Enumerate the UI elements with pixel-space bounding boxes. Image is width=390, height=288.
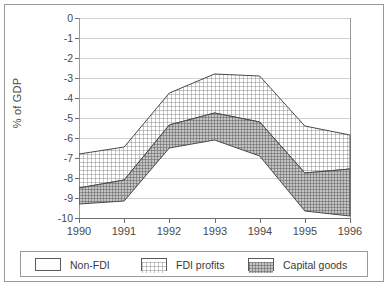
y-tick: -3 — [41, 73, 73, 83]
y-tick-label: 0 — [47, 13, 73, 23]
y-tick-label: -10 — [47, 213, 73, 223]
legend-item-capital-goods[interactable]: Capital goods — [248, 257, 347, 272]
x-tick-label: 1992 — [149, 225, 189, 237]
x-tick-mark — [124, 219, 125, 223]
x-tick-label: 1990 — [59, 225, 99, 237]
x-tick-label: 1996 — [330, 225, 370, 237]
legend-swatch-fdi-profits — [141, 258, 167, 271]
y-tick: -2 — [41, 53, 73, 63]
chart-legend: Non-FDI FDI profits Capital goods — [20, 251, 368, 277]
area-series-svg — [79, 18, 351, 219]
y-axis-title: % of GDP — [11, 53, 23, 153]
y-tick: 0 — [41, 13, 73, 23]
x-tick-mark — [350, 219, 351, 223]
y-tick: -6 — [41, 133, 73, 143]
y-tick: -7 — [41, 153, 73, 163]
legend-label-fdi-profits: FDI profits — [176, 259, 224, 271]
legend-item-fdi-profits[interactable]: FDI profits — [141, 257, 224, 272]
legend-label-non-fdi: Non-FDI — [70, 259, 110, 271]
chart-frame: % of GDP 0-1-2-3-4-5-6-7-8-9-10199019911… — [4, 4, 384, 282]
legend-swatch-capital-goods — [248, 258, 274, 271]
y-tick-label: -2 — [47, 53, 73, 63]
x-tick-mark — [305, 219, 306, 223]
x-tick-mark — [79, 219, 80, 223]
legend-label-capital-goods: Capital goods — [283, 259, 347, 271]
legend-swatch-non-fdi — [35, 258, 61, 271]
x-tick-label: 1993 — [195, 225, 235, 237]
y-tick-label: -6 — [47, 133, 73, 143]
y-tick-label: -9 — [47, 193, 73, 203]
y-tick: -8 — [41, 173, 73, 183]
y-tick-label: -7 — [47, 153, 73, 163]
y-tick: -5 — [41, 113, 73, 123]
x-tick-mark — [169, 219, 170, 223]
y-tick: -1 — [41, 33, 73, 43]
legend-item-non-fdi[interactable]: Non-FDI — [35, 257, 110, 272]
y-tick: -10 — [41, 213, 73, 223]
chart-plot-region: % of GDP 0-1-2-3-4-5-6-7-8-9-10199019911… — [5, 5, 385, 243]
y-tick-label: -3 — [47, 73, 73, 83]
y-tick-label: -1 — [47, 33, 73, 43]
y-tick: -4 — [41, 93, 73, 103]
x-tick-mark — [215, 219, 216, 223]
x-tick-label: 1991 — [104, 225, 144, 237]
x-tick-mark — [260, 219, 261, 223]
x-tick-label: 1994 — [240, 225, 280, 237]
y-tick-label: -4 — [47, 93, 73, 103]
y-tick: -9 — [41, 193, 73, 203]
y-tick-label: -8 — [47, 173, 73, 183]
y-tick-label: -5 — [47, 113, 73, 123]
x-tick-label: 1995 — [285, 225, 325, 237]
